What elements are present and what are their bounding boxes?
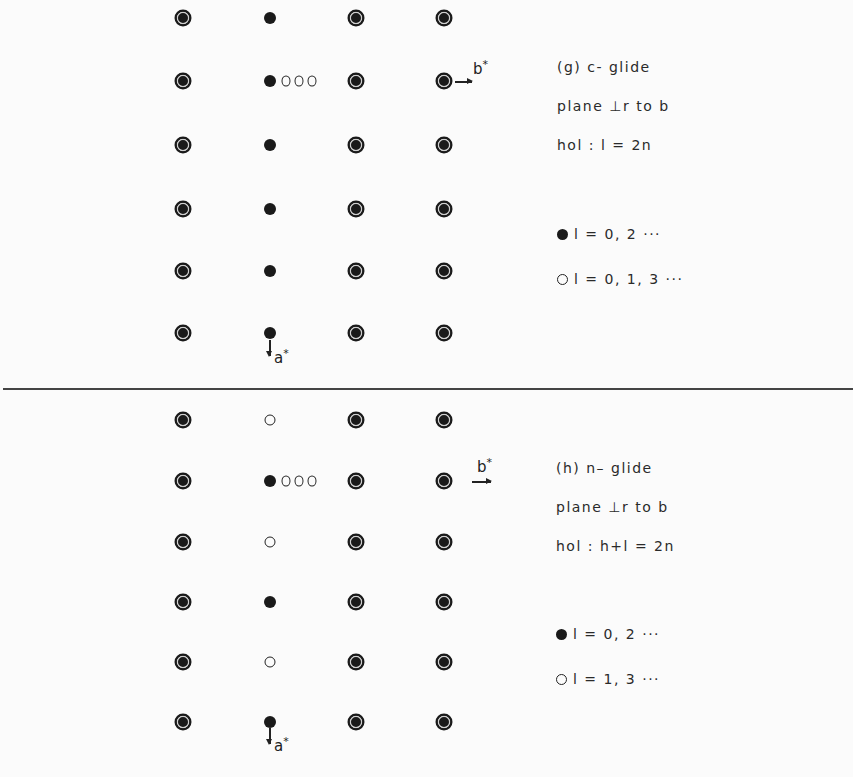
ringed-reflection-spot	[348, 473, 365, 490]
ringed-reflection-spot	[175, 473, 192, 490]
ringed-reflection-spot	[175, 412, 192, 429]
legend-open: l = 1, 3 ···	[556, 671, 660, 687]
ringed-reflection-spot	[348, 594, 365, 611]
ringed-reflection-spot	[348, 714, 365, 731]
filled-reflection-spot	[264, 716, 276, 728]
panel-title: (h) n– glide	[556, 460, 653, 476]
filled-reflection-spot	[264, 596, 276, 608]
ringed-reflection-spot	[436, 412, 453, 429]
ringed-reflection-spot	[175, 714, 192, 731]
a-star-label: a*	[274, 735, 289, 755]
filled-reflection-spot	[264, 475, 276, 487]
legend-filled: l = 0, 2 ···	[556, 626, 660, 642]
open-reflection-spot	[265, 657, 276, 668]
open-reflection-spot	[265, 537, 276, 548]
open-reflection-spot	[282, 476, 291, 487]
open-circle-icon	[556, 674, 567, 685]
b-star-label: b*	[477, 456, 492, 476]
ringed-reflection-spot	[436, 473, 453, 490]
reflection-condition: hol : h+l = 2n	[556, 538, 675, 554]
ringed-reflection-spot	[175, 534, 192, 551]
plane-description: plane ⊥r to b	[556, 499, 669, 515]
ringed-reflection-spot	[348, 412, 365, 429]
ringed-reflection-spot	[436, 534, 453, 551]
ringed-reflection-spot	[175, 654, 192, 671]
a-star-arrow	[269, 728, 271, 744]
filled-circle-icon	[556, 629, 567, 640]
ringed-reflection-spot	[175, 594, 192, 611]
ringed-reflection-spot	[436, 714, 453, 731]
b-star-arrow	[472, 481, 491, 483]
ringed-reflection-spot	[348, 534, 365, 551]
open-reflection-spot	[265, 415, 276, 426]
open-reflection-spot	[295, 476, 304, 487]
ringed-reflection-spot	[436, 654, 453, 671]
panel-n-glide: b* a* (h) n– glide plane ⊥r to b hol : h…	[0, 0, 853, 777]
ringed-reflection-spot	[436, 594, 453, 611]
open-reflection-spot	[308, 476, 317, 487]
ringed-reflection-spot	[348, 654, 365, 671]
